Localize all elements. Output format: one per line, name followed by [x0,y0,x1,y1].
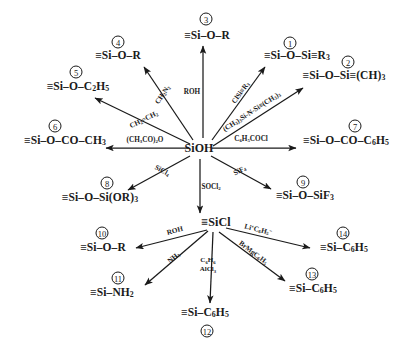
product-number-badge-14: 14 [337,227,350,240]
arrow-layer [0,0,404,345]
reagent-roh-top: ROH [184,88,200,96]
product-number-badge-4: 4 [112,36,125,49]
product-3: ≡Si–O–R [184,30,230,42]
reagent-sicl4: SiCl4 [153,163,171,178]
product-10: ≡Si–O–R [80,242,126,254]
product-number-badge-6: 6 [49,120,62,133]
reagent-roh-bottom: ROH [166,225,184,237]
reagent-phli: Li+C6H5− [243,222,272,237]
arrow-to-4 [144,67,193,140]
product-number-badge-2: 2 [342,56,355,69]
product-12: ≡Si–C6H5 [181,307,229,320]
product-8: ≡Si–O–Si(OR)3 [62,192,138,205]
reagent-nh3: NH3 [166,250,182,265]
product-13: ≡Si–C6H5 [289,283,337,296]
hub-sicl: ≡SiCl [201,216,230,228]
reagent-clsir3: ClSi≡R3 [230,80,252,105]
reagent-ethylene: CH2=CH2 [128,109,159,130]
reagent-benzene-alcl3: C6H6AlCl3 [200,256,216,273]
product-11: ≡Si–NH2 [90,287,134,300]
product-6: ≡Si–O–CO–CH3 [24,135,106,148]
reagent-benzoyl-cl: C6H5COCl [234,135,268,144]
product-number-badge-13: 13 [306,268,319,281]
product-number-badge-1: 1 [284,37,297,50]
reagent-socl2: SOCl2 [201,183,220,192]
product-number-badge-10: 10 [96,227,109,240]
hub-sioh: SiOH [184,142,213,154]
product-1: ≡Si–O–Si≡R3 [264,50,330,63]
reagent-ch2n2: CH2N2 [154,84,173,106]
reaction-scheme-diagram: SiOH≡SiCl≡Si–O–Si≡R31≡Si–O–Si≡(CH)32≡Si–… [0,0,404,345]
product-number-badge-11: 11 [112,272,125,285]
product-number-badge-5: 5 [70,66,83,79]
product-2: ≡Si–O–Si≡(CH)3 [303,70,386,83]
product-number-badge-12: 12 [201,325,214,338]
product-number-badge-7: 7 [349,120,362,133]
reagent-hmds: (CH3)3Si-N-Si≡(CH3)3 [222,90,283,134]
product-number-badge-8: 8 [101,177,114,190]
product-number-badge-3: 3 [200,13,213,26]
product-14: ≡Si–C6H5 [320,242,368,255]
product-9: ≡Si–O–SiF3 [276,190,334,203]
reagent-sif4: SiF4 [232,164,247,178]
product-number-badge-9: 9 [297,176,310,189]
product-7: ≡Si–O–CO–C6H5 [303,135,389,148]
reagent-grignard: BrMgC6H5 [237,239,269,266]
product-4: ≡Si–O–R [95,50,141,62]
product-5: ≡Si–O–C2H5 [47,81,110,94]
reagent-acetic-anh: (CH3CO)2O [127,136,164,145]
